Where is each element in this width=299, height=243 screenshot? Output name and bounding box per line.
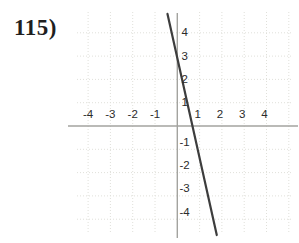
- y-tick-label: -4: [180, 206, 191, 218]
- graphed-line: [167, 14, 216, 235]
- x-tick-label: -4: [83, 108, 94, 120]
- y-tick-label: 2: [182, 73, 188, 85]
- x-tick-label: -2: [128, 108, 138, 120]
- x-tick-label: 2: [217, 108, 223, 120]
- y-tick-label: 1: [182, 96, 188, 108]
- y-tick-label: -1: [180, 136, 190, 148]
- x-tick-label: -1: [150, 108, 160, 120]
- x-tick-label: 3: [239, 108, 245, 120]
- y-tick-label: -2: [180, 159, 190, 171]
- x-tick-label: 1: [194, 108, 200, 120]
- y-tick-label: -3: [180, 182, 190, 194]
- y-tick-label: 3: [182, 50, 188, 62]
- x-tick-label: -3: [105, 108, 115, 120]
- y-tick-label: 4: [182, 26, 189, 38]
- worksheet-page: 115) -4-3-2-112344321-1-2-3-4: [0, 0, 299, 243]
- x-tick-label: 4: [261, 108, 268, 120]
- coordinate-plane: -4-3-2-112344321-1-2-3-4: [0, 0, 299, 243]
